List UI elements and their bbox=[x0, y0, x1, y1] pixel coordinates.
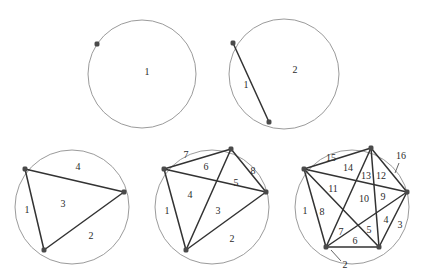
region-label: 10 bbox=[359, 193, 369, 204]
region-label: 13 bbox=[361, 170, 371, 181]
chord-line bbox=[304, 148, 371, 169]
region-label: 5 bbox=[367, 224, 372, 235]
region-label: 7 bbox=[184, 149, 189, 160]
region-label: 2 bbox=[89, 230, 94, 241]
region-label: 14 bbox=[343, 162, 353, 173]
region-label: 3 bbox=[61, 198, 66, 209]
region-label: 6 bbox=[204, 161, 209, 172]
region-label: 1 bbox=[145, 66, 150, 77]
vertex-dot bbox=[162, 167, 166, 171]
circle-4-points: 12345678 bbox=[155, 147, 269, 264]
vertex-dot bbox=[369, 146, 373, 150]
region-label: 11 bbox=[328, 183, 338, 194]
region-label: 1 bbox=[25, 204, 30, 215]
region-label: 4 bbox=[76, 161, 81, 172]
region-label: 1 bbox=[165, 205, 170, 216]
vertex-dot bbox=[42, 248, 46, 252]
region-label: 9 bbox=[381, 191, 386, 202]
vertex-dot bbox=[264, 190, 268, 194]
region-label: 3 bbox=[398, 219, 403, 230]
region-label: 3 bbox=[216, 205, 221, 216]
region-label: 4 bbox=[188, 189, 193, 200]
vertex-dot bbox=[229, 147, 233, 151]
circle-5-points: 12345678910111213141516 bbox=[295, 146, 409, 270]
vertex-dot bbox=[184, 248, 188, 252]
vertex-dot bbox=[377, 245, 381, 249]
chord-line bbox=[186, 192, 266, 250]
figure-container: 11212341234567812345678910111213141516 bbox=[0, 0, 424, 280]
chord-line bbox=[186, 149, 231, 250]
circle-3-points: 1234 bbox=[15, 150, 129, 264]
region-label: 1 bbox=[303, 205, 308, 216]
vertex-dot bbox=[95, 42, 99, 46]
vertex-dot bbox=[231, 41, 235, 45]
circle-1-point: 1 bbox=[88, 20, 196, 128]
region-label: 4 bbox=[384, 214, 389, 225]
region-label: 2 bbox=[230, 233, 235, 244]
leader-region-2 bbox=[331, 250, 341, 261]
region-label: 8 bbox=[251, 165, 256, 176]
chord-line bbox=[233, 43, 269, 122]
chord-line bbox=[25, 169, 124, 192]
region-label: 7 bbox=[339, 226, 344, 237]
vertex-dot bbox=[324, 245, 328, 249]
region-label: 12 bbox=[376, 170, 386, 181]
region-label: 2 bbox=[293, 64, 298, 75]
vertex-dot bbox=[302, 167, 306, 171]
region-label: 8 bbox=[320, 206, 325, 217]
chord-line bbox=[44, 192, 124, 250]
region-label: 5 bbox=[234, 177, 239, 188]
region-label: 2 bbox=[343, 259, 348, 270]
region-label: 1 bbox=[244, 79, 249, 90]
circle-outline bbox=[15, 150, 129, 264]
chord-line bbox=[371, 148, 379, 247]
circle-division-diagram: 11212341234567812345678910111213141516 bbox=[0, 0, 424, 280]
circle-2-points: 12 bbox=[229, 19, 339, 129]
panels-group: 11212341234567812345678910111213141516 bbox=[15, 19, 409, 270]
circle-outline bbox=[88, 20, 196, 128]
vertex-dot bbox=[23, 167, 27, 171]
region-label: 6 bbox=[353, 235, 358, 246]
region-label: 16 bbox=[396, 150, 406, 161]
circle-outline bbox=[229, 19, 339, 129]
vertex-dot bbox=[267, 120, 271, 124]
vertex-dot bbox=[405, 190, 409, 194]
vertex-dot bbox=[122, 190, 126, 194]
region-label: 15 bbox=[326, 152, 336, 163]
